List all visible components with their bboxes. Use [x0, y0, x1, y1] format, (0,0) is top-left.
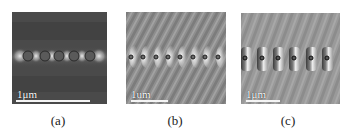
panel-a-image: 1μm — [12, 12, 107, 104]
panel-c-caption: (c) — [281, 113, 295, 129]
panel-c-scale-bar — [246, 100, 280, 102]
panel-a-caption: (a) — [51, 113, 65, 129]
panel-b-caption: (b) — [167, 113, 182, 129]
panel-b-scale-label: 1um — [131, 89, 151, 100]
panel-c-scale-label: 1μm — [246, 89, 266, 100]
panel-a-scale-label: 1μm — [17, 89, 37, 100]
panel-b-scale-bar — [131, 100, 168, 102]
panel-a-scale-bar — [16, 100, 90, 102]
panel-c-image: 1μm — [241, 13, 340, 104]
panel-b-image: 1um — [126, 12, 226, 104]
